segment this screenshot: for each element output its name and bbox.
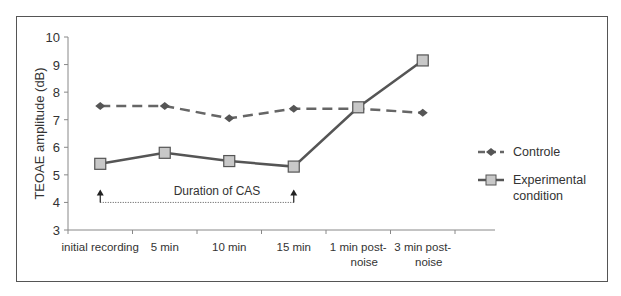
y-tick-label: 9 bbox=[53, 58, 60, 73]
series-line-controle bbox=[100, 106, 423, 118]
y-axis-label: TEOAE amplitude (dB) bbox=[32, 67, 47, 199]
arrow-up-icon bbox=[290, 189, 297, 195]
x-tick-label: 15 min bbox=[276, 241, 311, 253]
square-marker bbox=[288, 161, 299, 172]
legend-controle-label: Controle bbox=[513, 145, 560, 159]
square-marker bbox=[159, 147, 170, 158]
y-tick-label: 5 bbox=[53, 168, 60, 183]
diamond-marker bbox=[160, 102, 170, 110]
cas-annotation-label: Duration of CAS bbox=[174, 184, 261, 198]
line-chart: 345678910initial recording5 min10 min15 … bbox=[0, 0, 621, 296]
x-tick-label: noise bbox=[351, 256, 379, 268]
x-tick-label: 5 min bbox=[151, 241, 179, 253]
square-marker bbox=[224, 156, 235, 167]
x-tick-label: 1 min post- bbox=[330, 241, 387, 253]
diamond-marker bbox=[289, 105, 299, 113]
square-marker bbox=[353, 102, 364, 113]
y-tick-label: 7 bbox=[53, 113, 60, 128]
legend-square-icon bbox=[486, 175, 496, 185]
diamond-marker bbox=[418, 109, 428, 117]
y-tick-label: 3 bbox=[53, 223, 60, 238]
x-tick-label: 3 min post- bbox=[394, 241, 451, 253]
square-marker bbox=[417, 55, 428, 66]
legend-experimental-label: condition bbox=[513, 189, 563, 203]
legend-diamond-icon bbox=[486, 148, 496, 156]
x-tick-label: initial recording bbox=[62, 241, 139, 253]
arrow-up-icon bbox=[97, 189, 104, 195]
square-marker bbox=[95, 158, 106, 169]
y-tick-label: 6 bbox=[53, 140, 60, 155]
diamond-marker bbox=[224, 114, 234, 122]
y-tick-label: 10 bbox=[46, 30, 60, 45]
y-tick-label: 8 bbox=[53, 85, 60, 100]
x-tick-label: 10 min bbox=[212, 241, 247, 253]
diamond-marker bbox=[95, 102, 105, 110]
y-tick-label: 4 bbox=[53, 195, 60, 210]
legend-experimental-label: Experimental bbox=[513, 173, 586, 187]
x-tick-label: noise bbox=[415, 256, 443, 268]
